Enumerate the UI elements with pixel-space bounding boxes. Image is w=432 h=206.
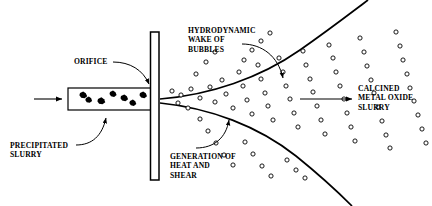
label-calcined-metal-oxide-slurry: CALCINED METAL OXIDE SLURRY	[358, 84, 413, 112]
orifice-plate	[151, 32, 160, 180]
orifice-leader-icon	[113, 62, 149, 84]
label-hydrodynamic-wake-of-bubbles: HYDRODYNAMIC WAKE OF BUBBLES	[188, 26, 256, 54]
heat-shear-leader-icon	[196, 120, 229, 148]
process-flow-diagram: ORIFICE HYDRODYNAMIC WAKE OF BUBBLES CAL…	[0, 0, 432, 206]
label-generation-of-heat-and-shear: GENERATION OF HEAT AND SHEAR	[170, 152, 236, 180]
precipitated-slurry-leader-icon	[76, 118, 106, 145]
inlet-pipe	[68, 88, 152, 110]
label-precipitated-slurry: PRECIPITATED SLURRY	[10, 141, 68, 160]
label-orifice: ORIFICE	[74, 57, 108, 66]
